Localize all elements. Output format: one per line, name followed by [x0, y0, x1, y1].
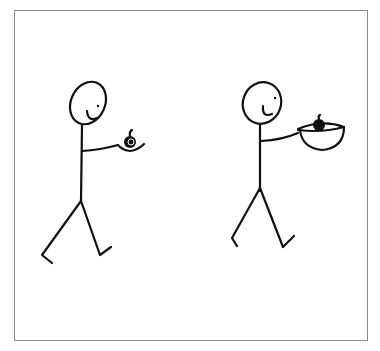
eye-left — [97, 105, 99, 107]
smile-left — [87, 111, 97, 119]
stick-figure-right — [232, 77, 344, 247]
arm-right — [261, 133, 298, 141]
leg-left-front — [81, 201, 111, 255]
smile-right — [263, 106, 272, 115]
head-left — [63, 76, 112, 130]
eye-right — [274, 97, 276, 99]
body-left — [81, 125, 82, 201]
comic-illustration — [0, 0, 380, 351]
apple-icon — [313, 115, 325, 131]
stick-figure-left — [42, 76, 144, 263]
leg-right-back — [232, 188, 260, 246]
apple-icon — [124, 130, 136, 148]
head-right — [237, 77, 287, 129]
leg-right-front — [260, 188, 294, 247]
leg-left-back — [42, 201, 81, 263]
